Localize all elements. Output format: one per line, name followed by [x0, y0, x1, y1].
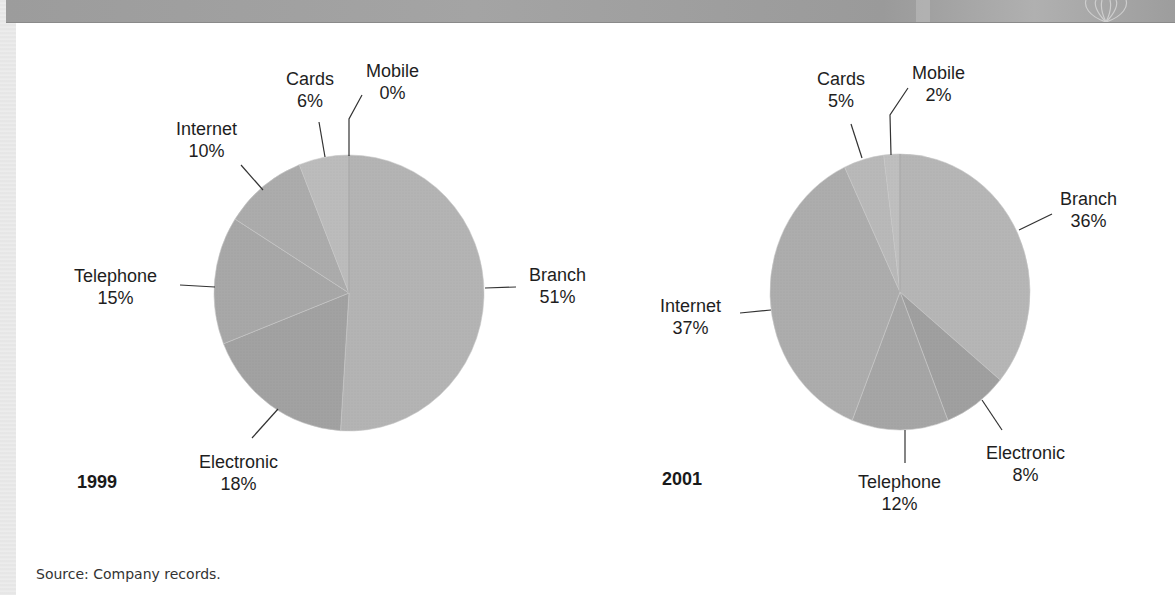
label-value: 5% — [817, 90, 865, 112]
label-value: 10% — [176, 140, 237, 162]
label-mobile-1999: Mobile 0% — [366, 60, 419, 104]
label-name: Electronic — [986, 442, 1065, 464]
label-value: 6% — [286, 90, 334, 112]
label-mobile-2001: Mobile 2% — [912, 62, 965, 106]
label-name: Cards — [817, 68, 865, 90]
label-name: Cards — [286, 68, 334, 90]
year-label-1999: 1999 — [77, 472, 117, 493]
pie-charts — [0, 0, 1175, 595]
label-value: 51% — [529, 286, 586, 308]
label-name: Mobile — [366, 60, 419, 82]
pie-slice-texture — [341, 155, 484, 431]
label-name: Branch — [529, 264, 586, 286]
label-name: Telephone — [858, 471, 941, 493]
label-electronic-2001: Electronic 8% — [986, 442, 1065, 486]
label-value: 18% — [199, 473, 278, 495]
source-note: Source: Company records. — [36, 566, 221, 582]
pie-chart-2001 — [770, 154, 1030, 430]
label-value: 37% — [660, 317, 721, 339]
label-name: Internet — [660, 295, 721, 317]
label-value: 12% — [858, 493, 941, 515]
label-internet-1999: Internet 10% — [176, 118, 237, 162]
label-name: Mobile — [912, 62, 965, 84]
label-name: Branch — [1060, 188, 1117, 210]
label-telephone-1999: Telephone 15% — [74, 265, 157, 309]
label-electronic-1999: Electronic 18% — [199, 451, 278, 495]
label-name: Telephone — [74, 265, 157, 287]
label-telephone-2001: Telephone 12% — [858, 471, 941, 515]
label-value: 2% — [912, 84, 965, 106]
year-label-2001: 2001 — [662, 469, 702, 490]
label-value: 36% — [1060, 210, 1117, 232]
label-value: 15% — [74, 287, 157, 309]
label-branch-2001: Branch 36% — [1060, 188, 1117, 232]
label-name: Electronic — [199, 451, 278, 473]
label-value: 0% — [366, 82, 419, 104]
label-internet-2001: Internet 37% — [660, 295, 721, 339]
label-cards-1999: Cards 6% — [286, 68, 334, 112]
label-branch-1999: Branch 51% — [529, 264, 586, 308]
label-cards-2001: Cards 5% — [817, 68, 865, 112]
pie-chart-1999 — [214, 155, 484, 431]
label-value: 8% — [986, 464, 1065, 486]
label-name: Internet — [176, 118, 237, 140]
